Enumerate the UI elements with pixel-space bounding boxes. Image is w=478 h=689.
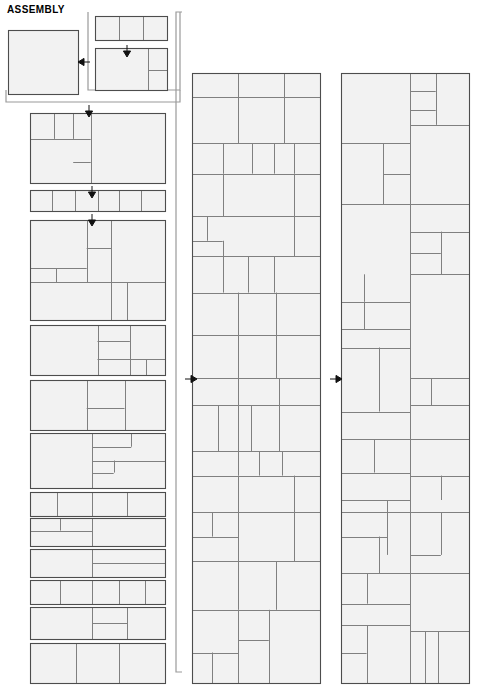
arrow-to-right-column <box>330 375 342 382</box>
panel-middle-column <box>192 73 321 684</box>
panel-left-11 <box>31 607 166 640</box>
assembly-diagram: ASSEMBLY <box>0 0 478 689</box>
panel-right-column <box>341 73 470 684</box>
panel-left-10 <box>31 580 166 605</box>
left-column-group <box>176 12 182 672</box>
panel-small-nest <box>96 48 168 91</box>
panel-left-3 <box>30 220 166 321</box>
panel-left-2 <box>31 190 166 212</box>
left-column-group-bracket <box>176 12 182 672</box>
panel-left-6 <box>31 433 166 489</box>
panel-left-3-fill <box>31 221 166 321</box>
panel-left-7 <box>31 492 166 517</box>
panel-blank-square <box>9 31 79 95</box>
panel-left-1 <box>30 113 166 184</box>
panel-left-5 <box>31 380 166 431</box>
panel-left-4 <box>31 325 166 376</box>
panel-blank-square-fill <box>9 31 79 95</box>
panel-left-8 <box>30 518 166 547</box>
panel-left-12-fill <box>31 644 166 684</box>
panel-left-12 <box>31 643 166 684</box>
panel-strip-top-fill <box>96 17 168 41</box>
panel-small-nest-fill <box>96 49 168 91</box>
panel-left-8-fill <box>31 519 166 547</box>
panel-left-7-fill <box>31 493 166 517</box>
diagram-canvas <box>0 0 478 689</box>
panel-left-9 <box>31 549 166 578</box>
panel-left-5-fill <box>31 381 166 431</box>
panel-strip-top <box>96 16 168 41</box>
panel-left-1-fill <box>31 114 166 184</box>
